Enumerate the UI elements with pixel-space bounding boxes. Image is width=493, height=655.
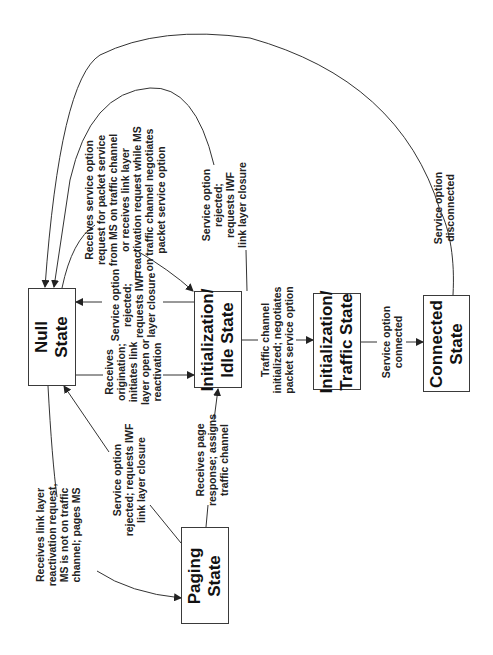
state-connected-label: Connected State xyxy=(427,300,467,388)
state-paging: Paging State xyxy=(181,527,229,624)
transition-label-traffic-to-connected: Service option connected xyxy=(380,306,404,378)
transition-label-traffic-to-null: Service option rejected; requests IWF li… xyxy=(200,162,248,248)
transition-label-idle-to-traffic: Traffic channel initialized; negotiates … xyxy=(259,286,295,393)
transition-label-null-to-idle: Receives origination; initiates link lay… xyxy=(103,339,163,405)
transition-label-paging-to-null: Service option rejected; requests IWF li… xyxy=(111,424,147,537)
state-idle-label: Initialization/ Idle State xyxy=(198,288,238,391)
state-traffic: Initialization/ Traffic State xyxy=(313,293,361,390)
state-idle: Initialization/ Idle State xyxy=(194,291,242,388)
state-connected: Connected State xyxy=(423,295,470,392)
state-null: Null State xyxy=(28,288,76,386)
transition-label-idle-to-null: Service option rejected; requests IWF la… xyxy=(109,269,157,341)
transition-label-null-to-paging: Receives link layer reactivation request… xyxy=(34,484,82,587)
transition-label-null-to-idle-curve: Receives service option request for pack… xyxy=(83,126,167,274)
state-paging-label: Paging State xyxy=(185,547,225,604)
transition-label-connected-to-null: Service option disconnected xyxy=(432,172,456,244)
state-traffic-label: Initialization/ Traffic State xyxy=(317,290,357,393)
state-null-label: Null State xyxy=(32,316,72,358)
transition-label-paging-to-idle: Receives page response; assigns traffic … xyxy=(194,414,230,506)
